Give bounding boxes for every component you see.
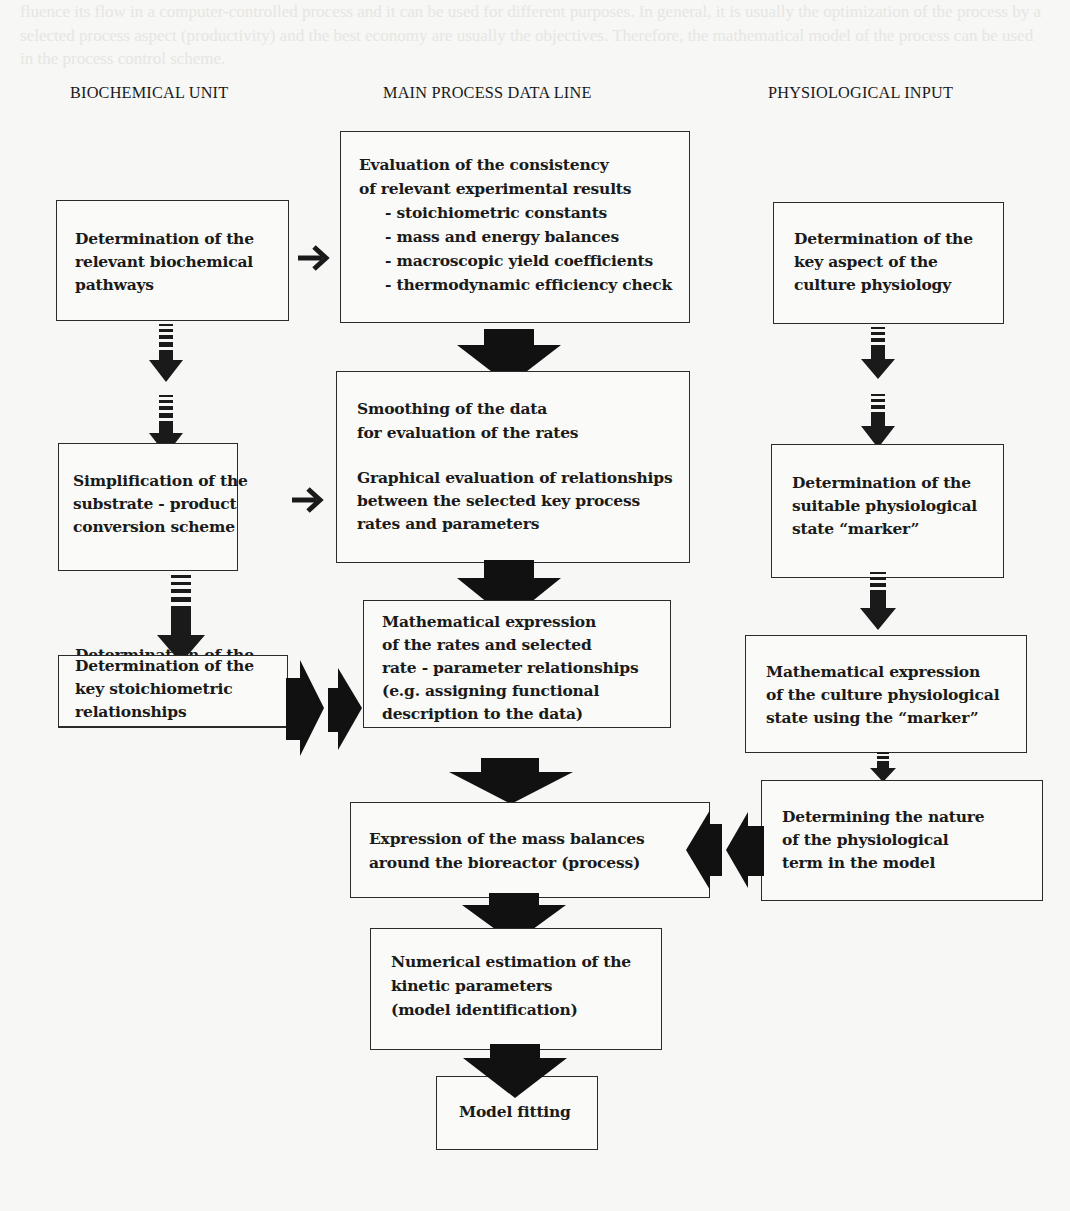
double-left-arrow-icon (686, 810, 764, 890)
box-text: key aspect of the (794, 251, 938, 274)
box-text: term in the model (782, 852, 935, 875)
striped-down-arrow-icon (860, 392, 896, 448)
box-text: Mathematical expression (382, 611, 596, 634)
box-text: between the selected key process (357, 490, 640, 513)
bullet-item: - mass and energy balances (385, 226, 619, 249)
box-text: (model identification) (391, 999, 578, 1022)
box-simplification-scheme: Simplification of the substrate - produc… (58, 443, 238, 571)
box-text: substrate - product (73, 493, 236, 516)
box-text: rates and parameters (357, 513, 539, 536)
box-text: Simplification of the (73, 470, 248, 493)
box-text: Determination of the (792, 472, 971, 495)
double-right-arrow-icon (286, 660, 366, 756)
striped-down-arrow-icon (870, 752, 896, 782)
bullet-item: - stoichiometric constants (385, 202, 607, 225)
striped-down-arrow-icon (860, 325, 896, 381)
box-text: (e.g. assigning functional (382, 680, 599, 703)
header-main-process-data-line: MAIN PROCESS DATA LINE (383, 82, 592, 103)
box-text: Graphical evaluation of relationships (357, 467, 672, 490)
box-text: relationships (75, 701, 186, 724)
box-text: rate - parameter relationships (382, 657, 638, 680)
box-smoothing-graphical-evaluation: Smoothing of the data for evaluation of … (336, 371, 690, 563)
box-text: Determining the nature (782, 806, 985, 829)
box-text: Numerical estimation of the (391, 951, 631, 974)
box-text: description to the data) (382, 703, 583, 726)
box-text: of relevant experimental results (359, 178, 631, 201)
box-text: of the rates and selected (382, 634, 592, 657)
box-text: Determination of the (75, 655, 254, 678)
big-down-arrow-icon (449, 758, 573, 804)
box-text: Evaluation of the consistency (359, 154, 609, 177)
big-down-arrow-icon (463, 1044, 567, 1098)
box-culture-physiology: Determination of the key aspect of the c… (773, 202, 1004, 324)
box-physiological-marker: Determination of the suitable physiologi… (771, 444, 1004, 578)
box-key-stoichiometric-relationships: Determination of the key stoichiometric … (58, 655, 288, 727)
right-arrow-icon (290, 485, 324, 515)
box-text: key stoichiometric (75, 678, 232, 701)
box-text: culture physiology (794, 274, 951, 297)
box-text: state using the “marker” (766, 707, 978, 730)
box-text: Model fitting (459, 1101, 571, 1124)
box-text: kinetic parameters (391, 975, 552, 998)
header-physiological-input: PHYSIOLOGICAL INPUT (768, 82, 953, 103)
box-evaluation-consistency: Evaluation of the consistency of relevan… (340, 131, 690, 323)
box-text: state “marker” (792, 518, 919, 541)
box-text: around the bioreactor (process) (369, 852, 640, 875)
box-text: suitable physiological (792, 495, 977, 518)
box-mass-balances: Expression of the mass balances around t… (350, 802, 710, 898)
box-text: relevant biochemical (75, 251, 253, 274)
striped-down-arrow-icon (860, 570, 896, 632)
box-physiological-term-nature: Determining the nature of the physiologi… (761, 780, 1043, 901)
box-text: pathways (75, 274, 154, 297)
box-biochemical-pathways: Determination of the relevant biochemica… (56, 200, 289, 321)
box-text: of the culture physiological (766, 684, 999, 707)
right-arrow-icon (296, 243, 330, 273)
box-text: Smoothing of the data (357, 398, 547, 421)
header-biochemical-unit: BIOCHEMICAL UNIT (70, 82, 228, 103)
box-text: Determination of the (794, 228, 973, 251)
box-text: for evaluation of the rates (357, 422, 578, 445)
striped-down-arrow-icon (148, 322, 184, 384)
box-math-expression-physiological-state: Mathematical expression of the culture p… (745, 635, 1027, 753)
bullet-item: - thermodynamic efficiency check (385, 274, 672, 297)
box-text: of the physiological (782, 829, 948, 852)
box-text: conversion scheme (73, 516, 235, 539)
box-text: Expression of the mass balances (369, 828, 645, 851)
box-text: Determination of the (75, 228, 254, 251)
box-numerical-estimation: Numerical estimation of the kinetic para… (370, 928, 662, 1050)
box-text: Mathematical expression (766, 661, 980, 684)
box-math-expression-rates: Mathematical expression of the rates and… (363, 600, 671, 728)
bullet-item: - macroscopic yield coefficients (385, 250, 653, 273)
